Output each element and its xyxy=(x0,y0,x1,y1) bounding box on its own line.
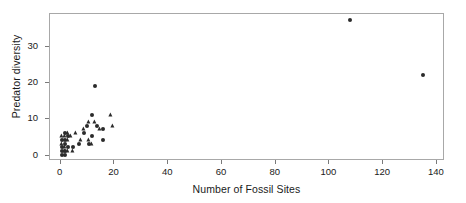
y-tick-mark xyxy=(45,155,49,156)
x-tick-mark xyxy=(113,160,114,164)
x-tick-mark xyxy=(60,160,61,164)
data-point xyxy=(93,84,97,88)
x-tick-label: 60 xyxy=(201,166,241,177)
data-point xyxy=(108,112,112,116)
data-point xyxy=(421,73,425,77)
x-tick-mark xyxy=(328,160,329,164)
x-tick-label: 40 xyxy=(147,166,187,177)
y-tick-label: 0 xyxy=(12,149,38,160)
plot-data-area xyxy=(49,13,444,160)
x-tick-mark xyxy=(167,160,168,164)
y-axis-title: Predator diversity xyxy=(10,3,24,150)
y-tick-mark xyxy=(45,118,49,119)
data-point xyxy=(71,148,75,152)
data-point xyxy=(79,137,83,141)
x-tick-label: 20 xyxy=(93,166,133,177)
data-point xyxy=(348,18,352,22)
y-tick-mark xyxy=(45,46,49,47)
x-tick-mark xyxy=(275,160,276,164)
x-tick-label: 140 xyxy=(416,166,456,177)
data-point xyxy=(63,148,67,152)
data-point xyxy=(101,138,105,142)
x-tick-label: 80 xyxy=(255,166,295,177)
data-point xyxy=(60,153,64,157)
data-point xyxy=(87,119,91,123)
x-tick-label: 0 xyxy=(40,166,80,177)
data-point xyxy=(81,127,85,131)
scatter-plot-figure: 0102030 020406080100120140 Predator dive… xyxy=(0,0,466,203)
data-point xyxy=(97,127,101,131)
data-point xyxy=(90,113,94,117)
x-axis-title: Number of Fossil Sites xyxy=(49,183,444,195)
x-tick-mark xyxy=(221,160,222,164)
data-point xyxy=(111,123,115,127)
data-point xyxy=(73,130,77,134)
data-point xyxy=(82,131,86,135)
data-point xyxy=(77,142,81,146)
x-tick-mark xyxy=(436,160,437,164)
data-point xyxy=(89,141,93,145)
x-tick-label: 100 xyxy=(308,166,348,177)
x-tick-mark xyxy=(382,160,383,164)
data-point xyxy=(60,134,64,138)
data-point xyxy=(65,137,69,141)
data-point xyxy=(60,141,64,145)
y-tick-mark xyxy=(45,82,49,83)
x-tick-label: 120 xyxy=(362,166,402,177)
data-point xyxy=(92,119,96,123)
